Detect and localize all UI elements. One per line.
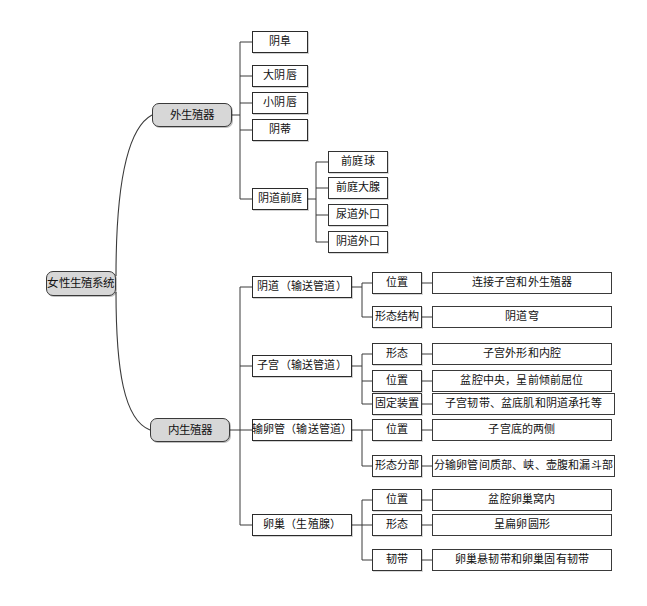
node-vagina[interactable]: 阴道（输送管道）: [252, 276, 352, 298]
node-vagina-position-detail-label: 连接子宫和外生殖器: [472, 277, 573, 289]
node-vagina-position-detail[interactable]: 连接子宫和外生殖器: [432, 272, 612, 294]
node-vaginal-orifice[interactable]: 阴道外口: [328, 231, 388, 253]
node-root-label: 女性生殖系统: [47, 277, 114, 289]
node-vaginal-vestibule-label: 阴道前庭: [258, 193, 303, 205]
node-uterus-fixation-detail[interactable]: 子宫韧带、盆底肌和阴道承托等: [432, 393, 615, 415]
node-ovary-morphology-detail[interactable]: 呈扁卵圆形: [432, 514, 612, 536]
node-fallopian-tube-position-detail[interactable]: 子宫底的两侧: [432, 419, 612, 441]
node-fallopian-tube-position[interactable]: 位置: [372, 419, 422, 441]
node-external-urethral-orifice-label: 尿道外口: [336, 209, 381, 221]
node-uterus-label: 子宫（输送管道）: [257, 360, 347, 372]
node-uterus[interactable]: 子宫（输送管道）: [252, 355, 352, 377]
node-vagina-morphology-detail-label: 阴道穹: [505, 311, 539, 323]
node-uterus-position-detail-label: 盆腔中央，呈前倾前屈位: [460, 375, 583, 387]
node-fallopian-tube-segments-detail-label: 分输卵管间质部、峡、壶腹和漏斗部: [434, 460, 613, 472]
node-clitoris-label: 阴蒂: [269, 124, 291, 136]
node-ovary-ligament-detail[interactable]: 卵巢悬韧带和卵巢固有韧带: [432, 549, 612, 571]
node-mons-pubis-label: 阴阜: [269, 36, 291, 48]
node-vaginal-orifice-label: 阴道外口: [336, 236, 381, 248]
node-mons-pubis[interactable]: 阴阜: [252, 31, 308, 53]
node-external-urethral-orifice[interactable]: 尿道外口: [328, 204, 388, 226]
node-ovary-morphology[interactable]: 形态: [372, 514, 422, 536]
node-labia-minora[interactable]: 小阴唇: [252, 92, 308, 114]
node-internal-genitalia-label: 内生殖器: [168, 424, 213, 436]
node-uterus-fixation-label: 固定装置: [375, 398, 420, 410]
node-vagina-morphology[interactable]: 形态结构: [372, 306, 422, 328]
node-vagina-position-label: 位置: [386, 277, 408, 289]
node-ovary-position-detail-label: 盆腔卵巢窝内: [488, 494, 555, 506]
node-internal-genitalia[interactable]: 内生殖器: [150, 418, 230, 442]
node-fallopian-tube-segments-label: 形态分部: [375, 460, 420, 472]
node-ovary-morphology-detail-label: 呈扁卵圆形: [494, 519, 550, 531]
node-vagina-position[interactable]: 位置: [372, 272, 422, 294]
node-ovary[interactable]: 卵巢（生殖腺）: [252, 514, 352, 536]
node-uterus-fixation[interactable]: 固定装置: [372, 393, 422, 415]
node-uterus-position[interactable]: 位置: [372, 370, 422, 392]
node-fallopian-tube-segments[interactable]: 形态分部: [372, 455, 422, 477]
node-ovary-morphology-label: 形态: [386, 519, 408, 531]
node-ovary-label: 卵巢（生殖腺）: [263, 519, 341, 531]
node-vestibular-bulb-label: 前庭球: [341, 156, 375, 168]
node-vaginal-vestibule[interactable]: 阴道前庭: [252, 188, 308, 210]
node-fallopian-tube-segments-detail[interactable]: 分输卵管间质部、峡、壶腹和漏斗部: [432, 455, 615, 477]
node-uterus-position-detail[interactable]: 盆腔中央，呈前倾前屈位: [432, 370, 612, 392]
node-uterus-morphology[interactable]: 形态: [372, 343, 422, 365]
node-uterus-fixation-detail-label: 子宫韧带、盆底肌和阴道承托等: [445, 398, 602, 410]
node-uterus-morphology-label: 形态: [386, 348, 408, 360]
node-vagina-morphology-label: 形态结构: [375, 311, 420, 323]
node-external-genitalia[interactable]: 外生殖器: [152, 103, 232, 127]
node-vagina-morphology-detail[interactable]: 阴道穹: [432, 306, 612, 328]
node-ovary-position-label: 位置: [386, 494, 408, 506]
node-uterus-morphology-detail-label: 子宫外形和内腔: [483, 348, 561, 360]
node-labia-minora-label: 小阴唇: [263, 97, 297, 109]
mindmap-canvas: 女性生殖系统 外生殖器 阴阜 大阴唇 小阴唇 阴蒂 阴道前庭 前庭球 前庭大腺 …: [0, 0, 647, 606]
node-fallopian-tube[interactable]: 输卵管（输送管道）: [252, 419, 352, 441]
node-clitoris[interactable]: 阴蒂: [252, 119, 308, 141]
node-labia-majora-label: 大阴唇: [263, 70, 297, 82]
node-uterus-position-label: 位置: [386, 375, 408, 387]
node-external-genitalia-label: 外生殖器: [170, 109, 215, 121]
node-uterus-morphology-detail[interactable]: 子宫外形和内腔: [432, 343, 612, 365]
node-greater-vestibular-gland[interactable]: 前庭大腺: [328, 177, 388, 199]
node-vagina-label: 阴道（输送管道）: [257, 281, 347, 293]
node-labia-majora[interactable]: 大阴唇: [252, 65, 308, 87]
node-vestibular-bulb[interactable]: 前庭球: [328, 151, 388, 173]
node-ovary-ligament[interactable]: 韧带: [372, 549, 422, 571]
node-ovary-position-detail[interactable]: 盆腔卵巢窝内: [432, 489, 612, 511]
node-ovary-position[interactable]: 位置: [372, 489, 422, 511]
node-fallopian-tube-label: 输卵管（输送管道）: [252, 424, 353, 436]
node-fallopian-tube-position-label: 位置: [386, 424, 408, 436]
node-ovary-ligament-label: 韧带: [386, 554, 408, 566]
node-root[interactable]: 女性生殖系统: [46, 271, 116, 296]
node-fallopian-tube-position-detail-label: 子宫底的两侧: [488, 424, 555, 436]
node-ovary-ligament-detail-label: 卵巢悬韧带和卵巢固有韧带: [455, 554, 589, 566]
node-greater-vestibular-gland-label: 前庭大腺: [336, 182, 381, 194]
